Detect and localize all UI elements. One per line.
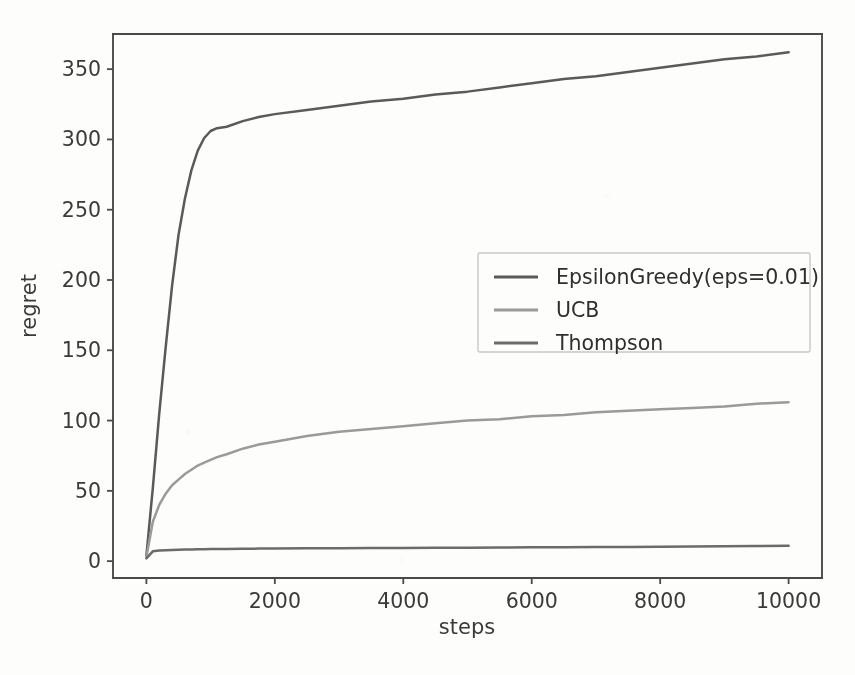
x-tick-label: 8000 [634, 589, 686, 613]
y-tick-label: 350 [62, 57, 101, 81]
x-tick-label: 2000 [249, 589, 301, 613]
chart-plot: 050100150200250300350 020004000600080001… [0, 0, 855, 675]
y-tick-label: 50 [75, 479, 101, 503]
chart-legend[interactable]: EpsilonGreedy(eps=0.01)UCBThompson [478, 253, 819, 355]
y-axis-label: regret [17, 274, 41, 338]
x-tick-label: 0 [140, 589, 153, 613]
x-axis-label: steps [439, 615, 495, 639]
y-tick-label: 0 [88, 549, 101, 573]
y-tick-label: 300 [62, 127, 101, 151]
legend-label[interactable]: Thompson [555, 331, 663, 355]
x-tick-label: 4000 [377, 589, 429, 613]
y-tick-label: 150 [62, 338, 101, 362]
figure-canvas: 050100150200250300350 020004000600080001… [0, 0, 855, 675]
legend-label[interactable]: EpsilonGreedy(eps=0.01) [556, 265, 819, 289]
y-tick-label: 100 [62, 409, 101, 433]
y-tick-label: 200 [62, 268, 101, 292]
legend-label[interactable]: UCB [556, 298, 599, 322]
x-tick-label: 10000 [756, 589, 821, 613]
y-tick-label: 250 [62, 198, 101, 222]
x-tick-label: 6000 [506, 589, 558, 613]
